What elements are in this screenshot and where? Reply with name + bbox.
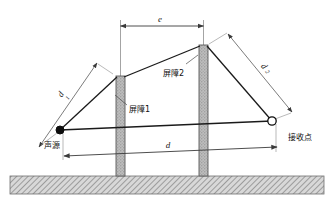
receiver-label: 接收点 (288, 132, 312, 142)
dimension-d1: d 1 (39, 63, 113, 147)
receiver-point (268, 117, 276, 125)
barrier-1 (116, 76, 125, 176)
source-point (56, 126, 64, 134)
dim-d1-subscript: 1 (64, 95, 71, 101)
barrier-2-leader (186, 55, 198, 64)
dimension-e: e (121, 14, 204, 26)
acoustic-barrier-diagram: e d 1 (0, 0, 334, 202)
dimension-d2: d 2 (209, 33, 292, 119)
dim-d2-subscript: 2 (264, 69, 271, 75)
dimension-d: d (63, 124, 277, 160)
barrier-1-label: 屏障1 (129, 104, 150, 114)
barrier-2 (199, 45, 208, 176)
barrier-2-label: 屏障2 (163, 68, 184, 78)
dim-e-label: e (158, 14, 162, 24)
direct-line (60, 121, 272, 130)
diagram-canvas: e d 1 (0, 0, 334, 202)
ground-layer (10, 176, 324, 194)
source-label: 声源 (44, 140, 60, 150)
dim-d-label: d (166, 140, 171, 150)
ray-path (60, 46, 272, 130)
